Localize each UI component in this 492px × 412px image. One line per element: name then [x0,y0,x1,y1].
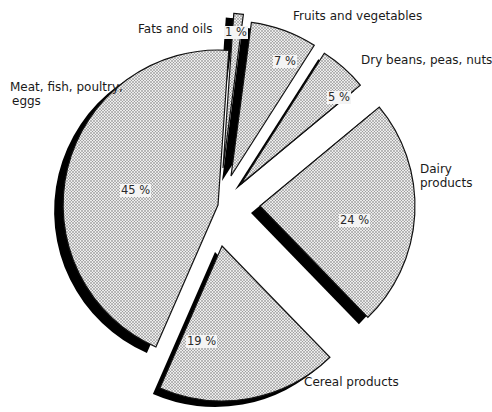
value-fats: 1 % [224,26,248,39]
label-cereal-products: Cereal products [304,375,399,389]
label-dairy-line2: products [420,176,472,190]
value-dairy: 24 % [339,214,370,227]
value-meat: 45 % [120,184,151,197]
label-dry-beans: Dry beans, peas, nuts [361,53,492,67]
label-meat-fish-poultry-eggs: Meat, fish, poultry, eggs [10,80,123,108]
value-fruits: 7 % [273,55,297,68]
label-dairy-line1: Dairy [420,162,472,176]
value-cereal: 19 % [186,335,217,348]
label-meat-line2: eggs [10,94,123,108]
label-fruits-and-vegetables: Fruits and vegetables [293,9,422,23]
value-beans: 5 % [327,91,351,104]
label-dairy-products: Dairy products [420,162,472,190]
label-meat-line1: Meat, fish, poultry, [10,80,123,94]
label-fats-and-oils: Fats and oils [138,22,213,36]
